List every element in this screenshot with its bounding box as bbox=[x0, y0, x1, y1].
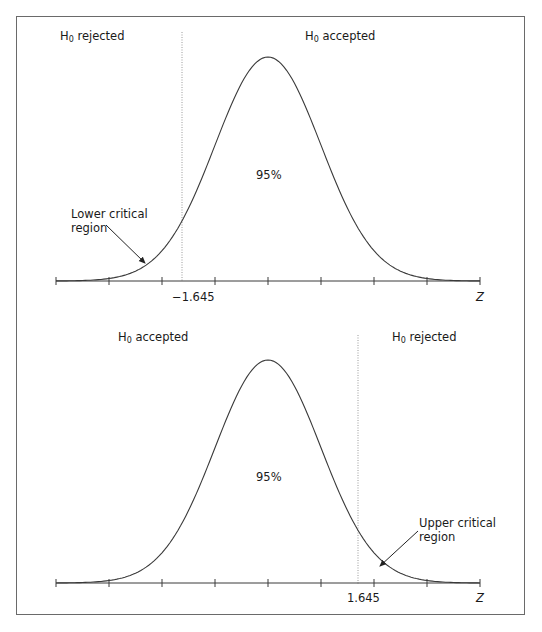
upper-critical-region-label-line1: Upper critical bbox=[419, 516, 496, 530]
upper-critical-region-label-line2: region bbox=[419, 530, 455, 544]
bottom-panel-graphics bbox=[56, 335, 480, 587]
h0-accepted-label-bottom: H0 accepted bbox=[118, 330, 188, 348]
lower-critical-arrow bbox=[106, 225, 145, 263]
top-panel-graphics bbox=[56, 32, 480, 285]
h0-accepted-label-top: H0 accepted bbox=[305, 29, 375, 47]
z-axis-label-top: Z bbox=[476, 290, 484, 304]
normal-distribution-figure bbox=[0, 0, 542, 632]
critical-value-label-top: −1.645 bbox=[172, 290, 215, 304]
z-axis-label-bottom: Z bbox=[476, 591, 484, 605]
lower-critical-region-label-line2: region bbox=[71, 221, 107, 235]
h0-rejected-label-top: H0 rejected bbox=[60, 29, 124, 47]
upper-critical-arrow bbox=[380, 531, 418, 566]
h0-rejected-label-bottom: H0 rejected bbox=[392, 330, 456, 348]
percent-label-bottom: 95% bbox=[256, 470, 282, 484]
lower-critical-region-label-line1: Lower critical bbox=[71, 207, 148, 221]
critical-value-label-bottom: 1.645 bbox=[347, 591, 380, 605]
percent-label-top: 95% bbox=[256, 168, 282, 182]
